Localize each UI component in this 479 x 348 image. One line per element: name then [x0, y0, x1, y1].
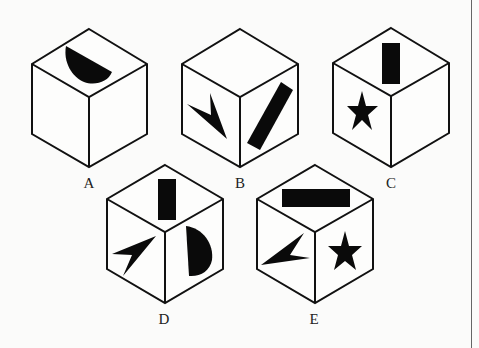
cube-b: B: [182, 29, 298, 191]
cube-label-b: B: [235, 175, 245, 191]
cube-label-c: C: [386, 175, 396, 191]
bar-icon: [382, 43, 400, 84]
cube-label-e: E: [309, 311, 318, 327]
cube-label-d: D: [159, 311, 170, 327]
cube-c: C: [333, 28, 449, 191]
bar-icon: [158, 179, 176, 220]
cube-e: E: [257, 165, 373, 327]
cube-label-a: A: [84, 175, 95, 191]
cube-a: A: [32, 29, 147, 191]
cube-puzzle-figure: A B C D E: [0, 0, 479, 348]
cube-d: D: [107, 165, 223, 327]
page-border-line: [471, 0, 472, 348]
bar-icon: [282, 189, 350, 207]
